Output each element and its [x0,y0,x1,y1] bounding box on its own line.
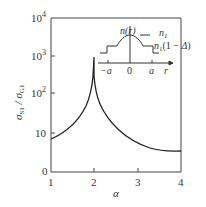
x-tick-2: 2 [91,176,97,188]
y-tick-100: 102 [31,85,46,99]
y-tick-10000: 104 [31,10,46,24]
chart: 104 103 102 10 0 1 2 3 4 α σS1 / σG1 [0,0,206,207]
x-axis-ticks [94,168,138,172]
x-tick-4: 4 [178,176,184,188]
y-tick-10: 10 [35,127,47,139]
inset-labels: n(r) n1 n1(1 − Δ) −a 0 a r [100,25,191,76]
y-axis-ticks [51,56,55,133]
inset-tick-neg-a: −a [100,65,112,76]
inset-cladding-label: n1(1 − Δ) [154,40,191,53]
y-axis-labels: 104 103 102 10 0 [31,10,48,177]
x-axis-title: α [113,187,119,199]
inset-tick-0: 0 [127,65,132,76]
inset-curve-label: n(r) [120,25,136,37]
x-tick-3: 3 [135,176,141,188]
x-tick-1: 1 [48,176,54,188]
inset-tick-a: a [149,65,154,76]
inset-core-label: n1 [159,27,168,40]
y-axis-title: σS1 / σG1 [12,84,26,120]
plot-frame [51,18,181,172]
inset-axis-r: r [164,65,168,76]
svg-text:σS1 / σG1: σS1 / σG1 [12,84,26,120]
data-curve [51,57,181,151]
y-tick-1000: 103 [31,48,46,62]
